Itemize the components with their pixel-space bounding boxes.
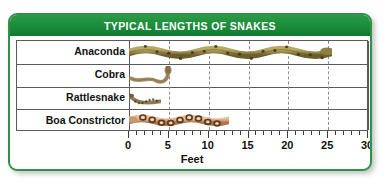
tick-label-25: 25 (321, 139, 333, 151)
minor-tick-9 (200, 131, 201, 135)
gridline-30ft (368, 41, 369, 130)
rattlesnake-snake-icon (129, 89, 161, 108)
minor-tick-28 (351, 131, 352, 135)
boa-constrictor-snake-icon (129, 111, 229, 130)
row-label-anaconda: Anaconda (17, 45, 129, 57)
minor-tick-23 (311, 131, 312, 135)
chart-card: TYPICAL LENGTHS OF SNAKES AnacondaCobraR… (8, 13, 372, 171)
minor-tick-27 (343, 131, 344, 135)
minor-tick-14 (240, 131, 241, 135)
row-separator (17, 87, 367, 88)
minor-tick-22 (303, 131, 304, 135)
tick-label-0: 0 (125, 139, 131, 151)
chart-header: TYPICAL LENGTHS OF SNAKES (10, 15, 370, 36)
minor-tick-4 (160, 131, 161, 135)
major-tick-0 (128, 131, 129, 138)
row-label-boa-constrictor: Boa Constrictor (17, 114, 129, 126)
major-tick-10 (208, 131, 209, 138)
minor-tick-11 (216, 131, 217, 135)
axis-title: Feet (16, 153, 368, 165)
major-tick-30 (367, 131, 368, 138)
axis-tick-labels: 051015202530 (16, 139, 368, 153)
minor-tick-18 (271, 131, 272, 135)
minor-tick-26 (335, 131, 336, 135)
major-tick-15 (248, 131, 249, 138)
minor-tick-24 (319, 131, 320, 135)
row-separator (17, 64, 367, 65)
anaconda-snake-icon (129, 43, 332, 62)
major-tick-25 (327, 131, 328, 138)
row-separator (17, 109, 367, 110)
minor-tick-16 (255, 131, 256, 135)
minor-tick-17 (263, 131, 264, 135)
row-label-rattlesnake: Rattlesnake (17, 91, 129, 103)
tick-label-30: 30 (361, 139, 372, 151)
tick-label-20: 20 (281, 139, 293, 151)
tick-label-5: 5 (165, 139, 171, 151)
tick-label-15: 15 (241, 139, 253, 151)
minor-tick-3 (152, 131, 153, 135)
major-tick-20 (287, 131, 288, 138)
minor-tick-29 (359, 131, 360, 135)
minor-tick-19 (279, 131, 280, 135)
grid-box: AnacondaCobraRattlesnakeBoa Constrictor (16, 40, 368, 131)
axis-ruler (16, 131, 368, 139)
minor-tick-7 (184, 131, 185, 135)
minor-tick-21 (295, 131, 296, 135)
tick-label-10: 10 (202, 139, 214, 151)
minor-tick-1 (136, 131, 137, 135)
chart-title: TYPICAL LENGTHS OF SNAKES (104, 20, 276, 32)
row-label-cobra: Cobra (17, 68, 129, 80)
minor-tick-6 (176, 131, 177, 135)
plot-area: AnacondaCobraRattlesnakeBoa Constrictor … (16, 40, 368, 168)
minor-tick-12 (224, 131, 225, 135)
cobra-snake-icon (129, 66, 175, 85)
minor-tick-8 (192, 131, 193, 135)
minor-tick-13 (232, 131, 233, 135)
major-tick-5 (168, 131, 169, 138)
minor-tick-2 (144, 131, 145, 135)
